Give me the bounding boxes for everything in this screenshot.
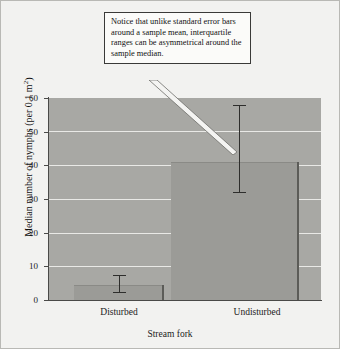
plot-area	[49, 98, 321, 300]
y-tick-30	[44, 199, 48, 200]
y-axis-title-tail: )	[23, 78, 34, 81]
x-axis-title: Stream fork	[1, 329, 339, 339]
x-category-label-disturbed: Disturbed	[49, 307, 189, 317]
bar-disturbed-right-edge	[162, 285, 164, 300]
error-bar-disturbed-stem	[119, 275, 120, 292]
x-axis-line	[48, 300, 322, 301]
annotation-callout: Notice that unlike standard error bars a…	[104, 12, 251, 64]
bar-undisturbed-top-edge	[171, 162, 299, 163]
y-tick-40	[44, 165, 48, 166]
figure-container: 60 50 40 30 20 10 0 Median number of nym…	[0, 0, 340, 349]
error-bar-disturbed-cap-upper	[113, 275, 126, 276]
y-tick-20	[44, 233, 48, 234]
y-axis-line	[48, 97, 49, 301]
gridline-50	[49, 131, 321, 132]
error-bar-undisturbed-stem	[239, 105, 240, 193]
y-axis-title-main: Median number of nymphs (per 0.1 m	[23, 84, 34, 236]
y-tick-label-0: 0	[12, 296, 38, 305]
y-tick-50	[44, 132, 48, 133]
y-tick-60	[44, 98, 48, 99]
x-category-label-undisturbed: Undisturbed	[187, 307, 327, 317]
error-bar-undisturbed-cap-upper	[233, 105, 246, 106]
y-axis-title-superscript: 2	[22, 81, 30, 85]
y-axis-title: Median number of nymphs (per 0.1 m2)	[22, 42, 34, 272]
error-bar-disturbed-cap-lower	[113, 292, 126, 293]
bar-undisturbed-right-edge	[297, 162, 299, 300]
y-tick-0	[44, 300, 48, 301]
bar-undisturbed	[171, 162, 299, 300]
error-bar-undisturbed-cap-lower	[233, 192, 246, 193]
y-tick-10	[44, 266, 48, 267]
